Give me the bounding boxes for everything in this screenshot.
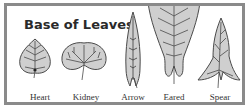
kidney-label: Kidney <box>73 92 100 102</box>
arrow-leaf-illustration <box>123 10 143 90</box>
diagram-title: Base of Leaves <box>24 17 134 32</box>
heart-label: Heart <box>30 92 50 102</box>
kidney-leaf-illustration <box>60 39 108 81</box>
heart-leaf-illustration <box>17 37 53 79</box>
spear-leaf-illustration <box>197 16 241 90</box>
spear-label: Spear <box>210 92 231 102</box>
arrow-label: Arrow <box>121 92 145 102</box>
eared-label: Eared <box>164 92 185 102</box>
eared-leaf-illustration <box>146 3 202 86</box>
diagram-frame: Base of Leaves Heart Kidney Arrow Eared <box>4 3 245 105</box>
